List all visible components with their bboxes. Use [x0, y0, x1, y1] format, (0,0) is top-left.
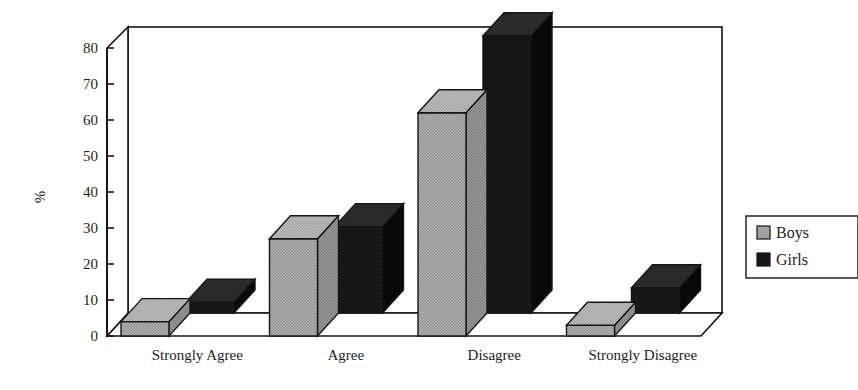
bar-girls-1: [335, 204, 404, 313]
bar-side-face: [531, 13, 552, 313]
chart-container: 01020304050607080 % Strongly AgreeAgreeD…: [0, 0, 858, 390]
bar-chart-3d: 01020304050607080 % Strongly AgreeAgreeD…: [0, 0, 858, 390]
bar-front-face: [121, 322, 169, 336]
bar-boys-1: [270, 216, 339, 336]
legend: Boys Girls: [746, 216, 858, 278]
bar-girls-2: [483, 13, 552, 313]
y-axis-title: %: [32, 191, 48, 204]
boys-swatch-icon: [757, 226, 770, 239]
bar-front-face: [567, 325, 615, 336]
y-tick-label-40: 40: [83, 184, 98, 200]
bar-front-face: [186, 302, 234, 313]
girls-swatch-icon: [757, 253, 770, 266]
legend-entry-girls[interactable]: Girls: [757, 251, 808, 268]
y-tick-label-50: 50: [83, 148, 98, 164]
bar-boys-2: [418, 90, 487, 336]
bar-front-face: [418, 113, 466, 336]
y-tick-label-70: 70: [83, 76, 98, 92]
y-tick-labels: 01020304050607080: [83, 40, 98, 344]
category-label-0: Strongly Agree: [152, 347, 244, 363]
category-label-3: Strongly Disagree: [588, 347, 697, 363]
y-tick-label-30: 30: [83, 220, 98, 236]
y-tick-label-0: 0: [91, 328, 99, 344]
bar-side-face: [466, 90, 487, 336]
y-tick-label-20: 20: [83, 256, 98, 272]
category-label-1: Agree: [327, 347, 364, 363]
bar-front-face: [270, 239, 318, 336]
legend-label-girls: Girls: [776, 251, 808, 268]
category-label-2: Disagree: [468, 347, 522, 363]
bar-front-face: [632, 288, 680, 313]
y-tick-label-60: 60: [83, 112, 98, 128]
legend-label-boys: Boys: [776, 224, 809, 242]
y-tick-label-10: 10: [83, 292, 98, 308]
left-wall: [107, 27, 128, 336]
y-tick-label-80: 80: [83, 40, 98, 56]
bar-front-face: [335, 227, 383, 313]
bar-front-face: [483, 36, 531, 313]
legend-entry-boys[interactable]: Boys: [757, 224, 809, 242]
